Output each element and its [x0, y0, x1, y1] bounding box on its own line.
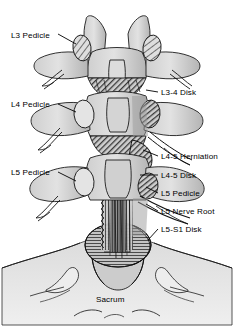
- label-l4-pedicle: L4 Pedicle: [11, 101, 50, 109]
- label-sacrum: Sacrum: [96, 296, 125, 304]
- illustration-canvas: L3 Pedicle L4 Pedicle L5 Pedicle L3-4 Di…: [0, 0, 234, 333]
- label-l5-nerve-root: L5 Nerve Root: [161, 208, 215, 216]
- label-l3-pedicle: L3 Pedicle: [11, 32, 50, 40]
- label-l5-pedicle-right: L5 Pedicle: [161, 190, 200, 198]
- label-l4-5-herniation: L4-5 Herniation: [161, 153, 218, 161]
- label-l4-5-disk: L4-5 Disk: [161, 172, 196, 180]
- lumbar-spine-diagram: [0, 0, 234, 333]
- label-l5-pedicle: L5 Pedicle: [11, 169, 50, 177]
- label-l3-4-disk: L3-4 Disk: [161, 89, 196, 97]
- label-l5-s1-disk: L5-S1 Disk: [161, 226, 202, 234]
